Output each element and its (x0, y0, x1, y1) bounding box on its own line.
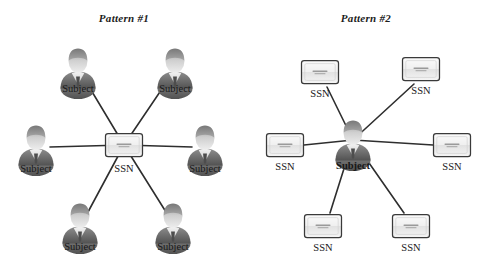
node-subject: Subject (19, 125, 54, 176)
diagram-svg: Pattern #1 Subject Subject Subject Subje… (0, 0, 488, 269)
edge-center-to-node (304, 140, 353, 145)
node-ssn: SSN (434, 134, 471, 173)
node-label: SSN (313, 242, 333, 253)
panel-pattern-2: Pattern #2 SSN SSN SSN SSN SSN (267, 12, 471, 253)
node-label: SSN (401, 242, 421, 253)
node-label: SSN (442, 161, 462, 172)
node-label: SSN (411, 85, 431, 96)
edge-center-to-node (353, 140, 433, 145)
node-label: Subject (189, 163, 221, 174)
center-node-label: Subject (336, 160, 370, 171)
panel-title-pattern-2: Pattern #2 (341, 12, 392, 24)
ssn-card-icon (267, 134, 304, 157)
node-label: SSN (275, 161, 295, 172)
node-subject: Subject (188, 125, 223, 176)
ssn-card-icon (393, 215, 430, 238)
ssn-card-icon (106, 134, 143, 157)
panel-pattern-1: Pattern #1 Subject Subject Subject Subje… (19, 12, 223, 254)
ssn-card-icon (403, 58, 440, 81)
figure-canvas: Pattern #1 Subject Subject Subject Subje… (0, 0, 488, 269)
node-subject: Subject (61, 48, 96, 99)
node-label: Subject (159, 83, 191, 94)
node-subject: Subject (63, 203, 98, 254)
node-subject: Subject (156, 203, 191, 254)
ssn-card-icon (302, 61, 339, 84)
ssn-card-icon (434, 134, 471, 157)
node-ssn: SSN (393, 215, 430, 254)
edges-pattern-2 (304, 84, 433, 213)
node-label: Subject (20, 163, 52, 174)
center-node-label: SSN (114, 163, 134, 174)
node-label: Subject (62, 83, 94, 94)
node-label: Subject (64, 241, 96, 252)
panel-title-pattern-1: Pattern #1 (99, 12, 149, 24)
ssn-card-icon (305, 215, 342, 238)
node-ssn: SSN (302, 61, 339, 100)
node-ssn: SSN (305, 215, 342, 254)
node-subject: Subject (158, 48, 193, 99)
node-label: Subject (157, 241, 189, 252)
node-label: SSN (310, 88, 330, 99)
node-ssn: SSN (267, 134, 304, 173)
